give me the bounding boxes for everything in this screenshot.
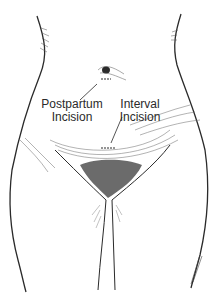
interval-label: Interval Incision (110, 98, 170, 124)
left-body-contour (10, 16, 45, 292)
anatomical-illustration (0, 0, 219, 304)
postpartum-label: Postpartum Incision (32, 98, 112, 124)
right-inner-thigh (112, 200, 115, 290)
postpartum-label-line2: Incision (32, 111, 112, 124)
umbilicus (98, 67, 126, 81)
left-inner-thigh (98, 200, 106, 290)
pubic-region (80, 160, 142, 198)
right-body-contour (175, 14, 208, 288)
interval-label-line2: Incision (110, 111, 170, 124)
thigh-hatching (92, 205, 122, 228)
